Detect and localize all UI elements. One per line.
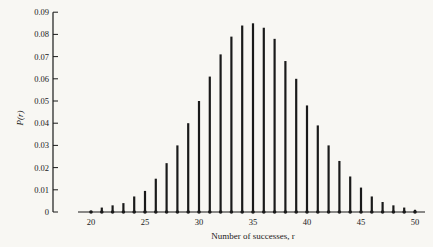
bar-r-32 xyxy=(219,54,223,213)
bar-r-25 xyxy=(143,191,147,214)
bar-r-28 xyxy=(176,145,180,213)
bar-r-39 xyxy=(294,79,298,214)
y-tick-label: 0.08 xyxy=(34,29,49,39)
y-tick-label: 0.02 xyxy=(34,163,49,173)
bar-r-45 xyxy=(359,188,363,214)
y-tick-label: 0.07 xyxy=(34,52,49,62)
bar-r-43 xyxy=(338,161,342,214)
x-tick-label: 35 xyxy=(249,217,258,227)
bar-r-35 xyxy=(251,23,255,214)
bar-r-38 xyxy=(284,61,288,214)
bar-r-49 xyxy=(402,208,406,214)
bar-r-40 xyxy=(305,105,309,213)
bar-r-37 xyxy=(273,39,277,214)
bar-r-22 xyxy=(111,205,115,213)
x-tick-label: 30 xyxy=(195,217,204,227)
x-tick-label: 50 xyxy=(411,217,420,227)
bar-r-23 xyxy=(122,203,126,214)
bar-r-27 xyxy=(165,163,169,214)
bar-r-21 xyxy=(100,208,104,214)
x-axis-title: Number of successes, r xyxy=(211,231,294,241)
y-tick-label: 0 xyxy=(45,207,49,217)
x-axis: 20253035404550 xyxy=(78,212,425,227)
x-tick-label: 45 xyxy=(357,217,366,227)
bar-r-24 xyxy=(132,196,136,213)
bar-r-26 xyxy=(154,179,158,214)
bar-r-30 xyxy=(197,101,201,214)
x-tick-label: 25 xyxy=(141,217,150,227)
bar-r-50 xyxy=(413,210,417,214)
bar-r-34 xyxy=(240,26,244,214)
y-axis-title: P(r) xyxy=(15,111,25,127)
bar-r-20 xyxy=(89,210,93,214)
bar-r-42 xyxy=(327,145,331,213)
bar-r-33 xyxy=(230,37,234,214)
y-tick-label: 0.05 xyxy=(34,96,49,106)
bar-r-48 xyxy=(392,205,396,213)
bar-r-41 xyxy=(316,125,320,213)
bar-r-44 xyxy=(348,176,352,213)
bars xyxy=(89,23,417,214)
bar-r-36 xyxy=(262,28,266,214)
y-tick-label: 0.09 xyxy=(34,7,49,17)
y-axis: 00.010.020.030.040.050.060.070.080.09 xyxy=(34,7,58,217)
x-tick-label: 20 xyxy=(87,217,96,227)
bar-r-47 xyxy=(381,202,385,214)
bar-r-31 xyxy=(208,77,212,214)
y-tick-label: 0.04 xyxy=(34,118,50,128)
x-tick-label: 40 xyxy=(303,217,312,227)
y-tick-label: 0.01 xyxy=(34,185,49,195)
bar-r-29 xyxy=(186,123,190,214)
probability-distribution-chart: 00.010.020.030.040.050.060.070.080.09 20… xyxy=(0,0,433,247)
y-tick-label: 0.03 xyxy=(34,140,49,150)
y-tick-label: 0.06 xyxy=(34,74,49,84)
bar-r-46 xyxy=(370,196,374,213)
